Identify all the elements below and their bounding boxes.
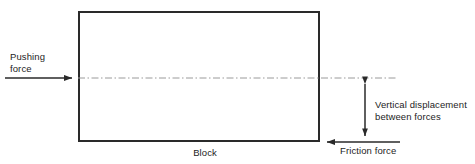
pushing-force-label-line2: force bbox=[10, 63, 32, 74]
block-label: Block bbox=[175, 147, 235, 159]
vertical-displacement-label: Vertical displacementbetween forces bbox=[375, 99, 467, 122]
vertical-displacement-label-line2: between forces bbox=[375, 111, 441, 122]
pushing-force-label-line1: Pushing bbox=[10, 51, 45, 62]
block-rectangle bbox=[79, 12, 319, 141]
pushing-force-label: Pushingforce bbox=[10, 51, 45, 74]
force-diagram: Pushingforce Vertical displacementbetwee… bbox=[0, 0, 475, 164]
diagram-canvas bbox=[0, 0, 475, 164]
friction-force-label: Friction force bbox=[340, 145, 396, 157]
vertical-displacement-label-line1: Vertical displacement bbox=[375, 99, 467, 110]
